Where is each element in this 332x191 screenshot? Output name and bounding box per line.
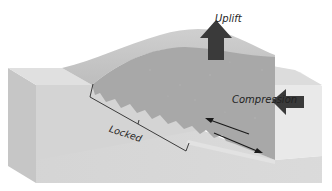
fault-block-diagram: Uplift Compression Locked	[0, 0, 332, 191]
block-left-side	[8, 68, 36, 183]
right-plateau-top	[272, 66, 322, 85]
compression-label: Compression	[232, 95, 297, 105]
uplift-label: Uplift	[215, 14, 242, 24]
